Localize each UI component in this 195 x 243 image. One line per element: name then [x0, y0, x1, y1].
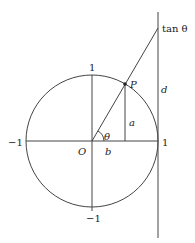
unit-circle-diagram: tan θ 1 1 −1 −1 O P θ a b d: [0, 0, 195, 243]
origin-label: O: [78, 146, 86, 157]
point-p-label: P: [129, 79, 137, 90]
b-label: b: [105, 146, 111, 157]
d-label: d: [161, 84, 167, 95]
point-p-marker: [123, 82, 127, 86]
right-one-label: 1: [162, 137, 168, 148]
a-label: a: [129, 117, 135, 128]
tan-label: tan θ: [162, 23, 188, 34]
bottom-minus-one-label: −1: [86, 213, 101, 224]
left-minus-one-label: −1: [8, 137, 23, 148]
angle-theta-label: θ: [104, 131, 110, 142]
top-one-label: 1: [89, 62, 95, 73]
